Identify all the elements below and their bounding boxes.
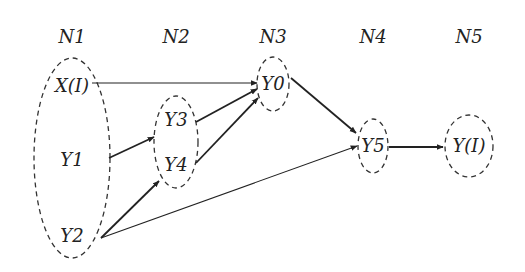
- node-y1: Y1: [60, 149, 83, 170]
- node-y3: Y3: [164, 109, 187, 130]
- edge-y3-to-y0: [196, 89, 257, 122]
- layer-label-n3: N3: [258, 26, 286, 47]
- network-diagram: N1N2N3N4N5 X(I)Y1Y2Y3Y4Y0Y5Y(I): [0, 0, 525, 272]
- node-y2: Y2: [60, 225, 83, 246]
- node-y0: Y0: [261, 73, 284, 94]
- node-yi: Y(I): [452, 135, 485, 156]
- edge-y1-to-y3: [109, 137, 154, 158]
- edge-y4-to-y0: [196, 98, 258, 163]
- node-xi: X(I): [53, 75, 89, 96]
- node-y5: Y5: [361, 135, 384, 156]
- edge-y2-to-y4: [101, 181, 159, 238]
- layer-label-n5: N5: [454, 26, 482, 47]
- layer-label-n2: N2: [161, 26, 189, 47]
- edge-y2-to-y5: [101, 146, 357, 238]
- edge-y0-to-y5: [291, 78, 356, 133]
- layer-label-n1: N1: [57, 26, 85, 47]
- node-y4: Y4: [164, 154, 187, 175]
- layer-label-n4: N4: [358, 26, 386, 47]
